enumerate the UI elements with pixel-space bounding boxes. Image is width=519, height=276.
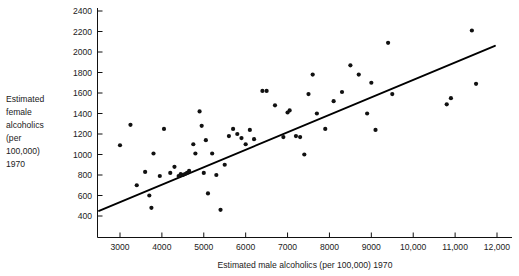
data-point [298, 135, 302, 139]
data-point [118, 143, 122, 147]
data-point [288, 108, 292, 112]
data-point [162, 127, 166, 131]
y-axis-tick-labels: 4006008001000120014001600180020002200240… [73, 6, 92, 221]
data-point [193, 151, 197, 155]
data-point [223, 163, 227, 167]
chart-canvas: Estimated female alcoholics (per 100,000… [0, 0, 519, 276]
data-point [168, 171, 172, 175]
y-tick-label: 600 [78, 191, 93, 201]
y-axis-tick-marks [98, 11, 103, 216]
data-points [118, 28, 478, 212]
x-tick-label: 8000 [320, 242, 339, 252]
y-axis-title-line-4: 100,000) [6, 146, 40, 156]
data-point [281, 135, 285, 139]
data-point [386, 41, 390, 45]
x-tick-label: 7000 [278, 242, 297, 252]
data-point [210, 151, 214, 155]
x-tick-label: 4000 [152, 242, 171, 252]
y-axis-title-line-1: female [6, 107, 32, 117]
data-point [214, 173, 218, 177]
data-point [357, 72, 361, 76]
y-tick-label: 1600 [73, 88, 92, 98]
data-point [235, 132, 239, 136]
data-point [200, 124, 204, 128]
y-tick-label: 2000 [73, 47, 92, 57]
data-point [252, 137, 256, 141]
data-point [143, 170, 147, 174]
data-point [294, 134, 298, 138]
data-point [151, 151, 155, 155]
data-point [227, 134, 231, 138]
y-axis-title-line-5: 1970 [6, 159, 25, 169]
data-point [149, 206, 153, 210]
y-axis-title-line-2: alcoholics [6, 120, 44, 130]
data-point [260, 89, 264, 93]
data-point [265, 89, 269, 93]
x-tick-label: 3000 [110, 242, 129, 252]
data-point [315, 111, 319, 115]
data-point [135, 183, 139, 187]
y-axis-title-line-0: Estimated [6, 94, 44, 104]
data-point [306, 92, 310, 96]
data-point [302, 152, 306, 156]
data-point [340, 90, 344, 94]
data-point [332, 99, 336, 103]
data-point [449, 96, 453, 100]
data-point [470, 28, 474, 32]
y-tick-label: 1800 [73, 68, 92, 78]
data-point [147, 193, 151, 197]
x-tick-label: 11,000 [442, 242, 468, 252]
data-point [218, 208, 222, 212]
data-point [202, 171, 206, 175]
y-tick-label: 2400 [73, 6, 92, 16]
data-point [348, 63, 352, 67]
data-point [244, 142, 248, 146]
x-tick-label: 12,000 [484, 242, 511, 252]
data-point [273, 103, 277, 107]
x-tick-label: 10,000 [400, 242, 427, 252]
x-tick-label: 6000 [236, 242, 255, 252]
y-axis-title-line-3: (per [6, 133, 21, 143]
data-point [128, 123, 132, 127]
x-axis-tick-labels: 300040005000600070008000900010,00011,000… [110, 242, 510, 252]
data-point [311, 72, 315, 76]
data-point [231, 127, 235, 131]
data-point [187, 169, 191, 173]
y-tick-label: 2200 [73, 27, 92, 37]
data-point [390, 92, 394, 96]
data-point [206, 191, 210, 195]
y-tick-label: 1400 [73, 109, 92, 119]
data-point [323, 127, 327, 131]
data-point [158, 174, 162, 178]
x-axis-title: Estimated male alcoholics (per 100,000) … [218, 260, 393, 270]
data-point [248, 128, 252, 132]
y-tick-label: 400 [78, 211, 93, 221]
data-point [445, 102, 449, 106]
data-point [369, 81, 373, 85]
data-point [365, 111, 369, 115]
x-tick-label: 5000 [194, 242, 213, 252]
data-point [172, 165, 176, 169]
data-point [373, 128, 377, 132]
data-point [197, 109, 201, 113]
data-point [474, 82, 478, 86]
y-tick-label: 1000 [73, 150, 92, 160]
scatter-plot-figure: Estimated female alcoholics (per 100,000… [0, 0, 519, 276]
y-tick-label: 800 [78, 170, 93, 180]
x-tick-label: 9000 [362, 242, 381, 252]
data-point [204, 138, 208, 142]
data-point [239, 136, 243, 140]
x-axis-tick-marks [120, 233, 497, 238]
y-tick-label: 1200 [73, 129, 92, 139]
regression-line [99, 46, 495, 211]
y-axis-title: Estimated female alcoholics (per 100,000… [6, 94, 44, 169]
data-point [191, 142, 195, 146]
